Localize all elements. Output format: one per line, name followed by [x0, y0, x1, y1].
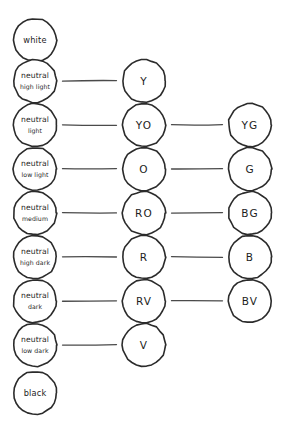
node-layer: whiteneutralhigh lightYneutrallightYOYGn… — [13, 19, 272, 415]
node-outline-circle — [14, 59, 57, 102]
primary-hue-node[interactable]: V — [122, 323, 166, 366]
neutral-node-label-line1: neutral — [21, 335, 49, 344]
secondary-hue-node[interactable]: BG — [229, 191, 272, 234]
neutral-node[interactable]: white — [13, 19, 57, 62]
neutral-node-label-line1: neutral — [21, 71, 49, 80]
connector-neutral-to-primary-hue — [63, 80, 117, 81]
neutral-node[interactable]: neutrallight — [13, 103, 56, 146]
neutral-node-label-line1: neutral — [21, 115, 49, 124]
primary-hue-node-label: YO — [135, 119, 152, 131]
node-outline-circle — [13, 148, 57, 190]
primary-hue-node-label: RV — [136, 295, 152, 307]
secondary-hue-node-label: YG — [241, 119, 259, 131]
secondary-hue-node-label: BV — [242, 295, 258, 307]
neutral-node-label-line2: dark — [28, 303, 43, 310]
neutral-node-label: black — [24, 388, 47, 398]
connector-primary-to-secondary-hue — [172, 257, 223, 258]
node-outline-circle — [14, 236, 57, 279]
secondary-hue-node[interactable]: YG — [229, 103, 272, 146]
neutral-node-label-line2: medium — [22, 215, 48, 222]
primary-hue-node-label: O — [139, 163, 148, 175]
node-outline-circle — [14, 280, 57, 323]
diagram-canvas: whiteneutralhigh lightYneutrallightYOYGn… — [0, 0, 281, 437]
node-outline-circle — [13, 103, 56, 146]
neutral-node-label: white — [23, 35, 46, 45]
neutral-node-label-line1: neutral — [21, 291, 49, 300]
neutral-node-label-line2: light — [28, 127, 43, 135]
neutral-node[interactable]: black — [14, 372, 57, 415]
neutral-node-label-line2: low dark — [21, 347, 48, 354]
primary-hue-node-label: V — [140, 339, 148, 351]
node-outline-circle — [14, 324, 57, 367]
primary-hue-node-label: Y — [139, 75, 148, 87]
primary-hue-node-label: R — [140, 251, 148, 263]
connector-neutral-to-primary-hue — [63, 125, 117, 126]
neutral-node[interactable]: neutrallow dark — [14, 324, 57, 367]
primary-hue-node[interactable]: RV — [122, 279, 165, 322]
neutral-node-label-line1: neutral — [21, 203, 49, 212]
connector-primary-to-secondary-hue — [172, 125, 223, 126]
neutral-node-label-line2: low light — [21, 171, 49, 179]
neutral-node-label-line1: neutral — [21, 247, 49, 256]
neutral-node-label-line1: neutral — [21, 159, 49, 168]
neutral-node-label-line2: high light — [20, 83, 51, 91]
neutral-node[interactable]: neutraldark — [14, 280, 57, 323]
secondary-hue-node[interactable]: G — [228, 147, 272, 190]
primary-hue-node[interactable]: YO — [122, 104, 166, 147]
secondary-hue-node-label: BG — [241, 207, 258, 219]
primary-hue-node[interactable]: RO — [122, 191, 166, 235]
neutral-node[interactable]: neutrallow light — [13, 148, 57, 190]
neutral-node-label-line2: high dark — [20, 259, 51, 267]
neutral-node[interactable]: neutralhigh dark — [14, 236, 57, 279]
primary-hue-node[interactable]: Y — [123, 59, 165, 102]
secondary-hue-node[interactable]: BV — [228, 280, 271, 322]
connector-neutral-to-primary-hue — [63, 345, 117, 346]
secondary-hue-node[interactable]: B — [229, 236, 272, 279]
neutral-node[interactable]: neutralhigh light — [14, 59, 57, 102]
primary-hue-node[interactable]: R — [123, 235, 166, 278]
neutral-node[interactable]: neutralmedium — [14, 191, 57, 234]
secondary-hue-node-label: B — [246, 251, 254, 263]
node-outline-circle — [14, 191, 57, 234]
color-value-hue-diagram: whiteneutralhigh lightYneutrallightYOYGn… — [0, 0, 281, 437]
primary-hue-node-label: RO — [135, 207, 153, 219]
primary-hue-node[interactable]: O — [123, 148, 166, 191]
secondary-hue-node-label: G — [245, 163, 254, 175]
